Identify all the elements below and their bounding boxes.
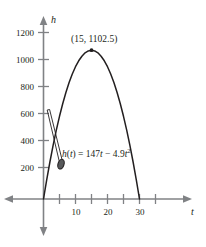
leader-line-endpoint-ellipse — [57, 159, 66, 170]
leader-line-tip — [47, 110, 49, 111]
y-tick-label-200: 200 — [6, 164, 34, 173]
equation-equals: = 147 — [76, 149, 100, 159]
y-axis-label-h: h — [51, 15, 56, 25]
parabola-chart-figure: 1200 1000 800 600 400 200 10 20 30 h t (… — [0, 0, 206, 247]
equation-minus: − 4.9 — [103, 149, 125, 159]
y-tick-label-1000: 1000 — [6, 56, 34, 65]
x-tick-label-10: 10 — [66, 208, 86, 217]
x-axis — [4, 195, 192, 203]
y-tick-label-400: 400 — [6, 137, 34, 146]
y-axis — [40, 16, 48, 236]
y-tick-label-1200: 1200 — [6, 29, 34, 38]
y-tick-label-600: 600 — [6, 110, 34, 119]
y-tick-label-800: 800 — [6, 83, 34, 92]
equation-arg: (t) — [67, 149, 76, 159]
x-tick-label-30: 30 — [130, 208, 150, 217]
equation-arg-t: t — [70, 149, 73, 159]
x-axis-right-arrowhead — [183, 195, 192, 203]
vertex-coordinate-label: (15, 1102.5) — [71, 35, 117, 45]
y-axis-top-arrowhead — [40, 16, 48, 25]
x-axis-left-arrowhead — [4, 195, 13, 203]
x-tick-label-20: 20 — [98, 208, 118, 217]
equation-label: h(t) = 147t − 4.9t2 — [62, 150, 131, 160]
equation-exponent: 2 — [127, 147, 130, 154]
vertex-marker-dot — [90, 48, 94, 52]
leader-line-lower-edge — [47, 110, 60, 165]
parabola-curve — [44, 50, 140, 199]
x-axis-label-t: t — [191, 207, 194, 217]
y-axis-bottom-arrowhead — [40, 227, 48, 236]
